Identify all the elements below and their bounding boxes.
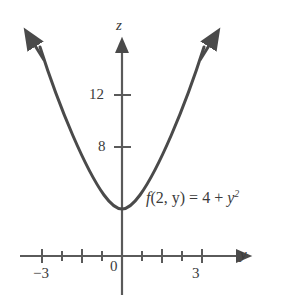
z-tick-label-8: 8 <box>98 139 106 154</box>
y-tick-label-3: 3 <box>192 266 200 281</box>
parabola-figure: z y 12 8 −3 0 3 f(2, y) = 4 + y2 <box>0 0 302 307</box>
z-tick-label-12: 12 <box>89 87 104 102</box>
equation-exponent: 2 <box>234 188 239 199</box>
equation-equals-rhs: = 4 + <box>185 189 227 206</box>
function-equation-label: f(2, y) = 4 + y2 <box>146 190 239 206</box>
equation-arguments: (2, y) <box>150 189 185 206</box>
z-axis-label: z <box>116 18 122 33</box>
origin-label: 0 <box>110 259 118 274</box>
y-tick-label-negative-3: −3 <box>33 266 49 281</box>
y-axis <box>20 249 238 263</box>
plot-canvas <box>0 0 302 307</box>
y-axis-label: y <box>240 247 247 262</box>
